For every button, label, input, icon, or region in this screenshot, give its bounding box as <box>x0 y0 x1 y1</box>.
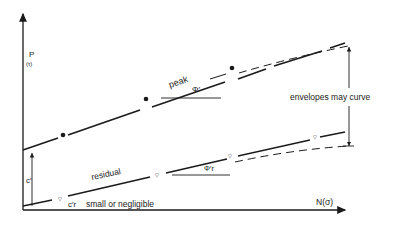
residual-data-point: ▽ <box>155 172 159 178</box>
peak-data-point <box>230 66 235 71</box>
residual-data-point: ▽ <box>228 153 232 159</box>
peak-label: peak <box>167 74 189 90</box>
curve-note: envelopes may curve <box>290 92 371 102</box>
residual-label: residual <box>90 166 121 182</box>
residual-data-point: ▽ <box>313 134 317 140</box>
peak-data-point <box>144 97 149 102</box>
x-axis-label: N(σ) <box>316 197 333 207</box>
peak-data-point <box>61 133 66 138</box>
residual-envelope: ▽ ▽ ▽ ▽ <box>23 132 348 206</box>
y-axis-sublabel: (τ) <box>26 61 32 67</box>
cohesion-label: c′ <box>26 176 32 185</box>
residual-cohesion-label: c′r <box>68 200 77 209</box>
residual-cohesion-note: small or negligible <box>86 199 154 209</box>
strength-envelope-diagram: P (τ) N(σ) peak Φ′ ▽ ▽ ▽ ▽ residual Φ′r <box>0 0 395 227</box>
residual-data-point: ▽ <box>58 196 62 202</box>
peak-angle-label: Φ′ <box>192 85 200 94</box>
y-axis-label: P <box>29 50 34 59</box>
residual-angle-label: Φ′r <box>204 164 214 173</box>
